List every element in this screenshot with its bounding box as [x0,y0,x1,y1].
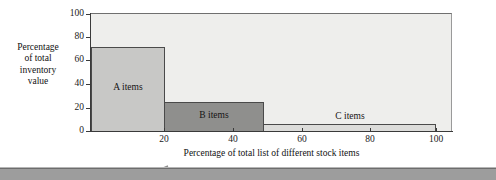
page-footer-band [0,168,496,180]
y-axis-title-line-1: Percentage [2,42,74,53]
bar-label-a-items: A items [98,82,158,92]
y-axis-title-line-3: inventory [2,65,74,76]
x-axis-title: Percentage of total list of different st… [91,148,452,159]
x-tick-40 [233,128,234,132]
x-tick-label-80: 80 [350,134,390,145]
y-axis-line [90,13,91,132]
x-tick-label-20: 20 [144,134,184,145]
bar-label-c-items: C items [320,111,380,121]
y-tick-label-100: 100 [58,9,84,19]
y-tick-label-0: 0 [58,126,84,136]
x-tick-label-100: 100 [416,134,456,145]
y-tick-label-40: 40 [58,79,84,89]
x-tick-label-60: 60 [282,134,322,145]
x-tick-80 [370,128,371,132]
x-tick-label-40: 40 [213,134,253,145]
abc-inventory-chart-figure: Percentage of total inventory value 100 … [0,0,496,180]
x-tick-20 [164,128,165,132]
x-tick-60 [302,128,303,132]
y-tick-label-60: 60 [58,55,84,65]
x-tick-100 [436,128,437,132]
y-tick-label-80: 80 [58,32,84,42]
y-tick-label-20: 20 [58,103,84,113]
x-axis-line [90,131,453,132]
bar-label-b-items: B items [184,110,244,120]
